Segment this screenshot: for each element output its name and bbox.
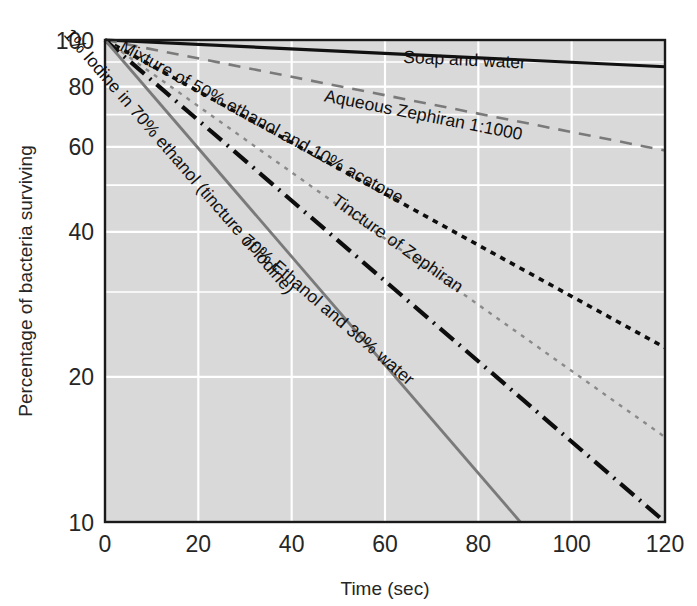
y-tick-label: 80 (68, 74, 94, 100)
y-tick-label: 10 (68, 510, 94, 536)
y-tick-label: 60 (68, 134, 94, 160)
chart-figure: 020406080100120 1020406080100 Soap and w… (0, 0, 697, 606)
y-tick-label: 20 (68, 364, 94, 390)
x-tick-label: 120 (646, 531, 684, 557)
x-tick-label: 60 (372, 531, 398, 557)
x-tick-label: 80 (466, 531, 492, 557)
survival-curve-chart: 020406080100120 1020406080100 Soap and w… (0, 0, 697, 606)
y-axis-title: Percentage of bacteria surviving (15, 145, 36, 416)
x-tick-label: 20 (186, 531, 212, 557)
x-axis-title: Time (sec) (340, 578, 429, 599)
x-tick-label: 100 (552, 531, 590, 557)
y-tick-label: 40 (68, 219, 94, 245)
x-tick-label: 40 (279, 531, 305, 557)
x-tick-label: 0 (99, 531, 112, 557)
